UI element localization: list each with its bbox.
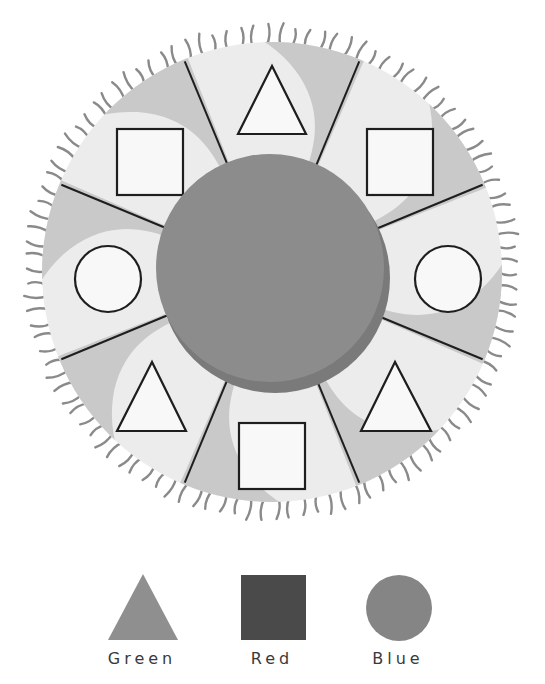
sector-top-left-square-shape[interactable] bbox=[117, 129, 183, 195]
legend-label-red: Red bbox=[212, 649, 332, 668]
triangle-icon bbox=[108, 574, 178, 642]
legend-label-green: Green bbox=[82, 649, 202, 668]
legend-label-blue: Blue bbox=[338, 649, 458, 668]
sector-right-circle-shape[interactable] bbox=[415, 246, 481, 312]
sector-bottom-square-shape[interactable] bbox=[239, 423, 305, 489]
sector-top-right-square-shape[interactable] bbox=[367, 129, 433, 195]
center-disc-face bbox=[156, 154, 384, 382]
circle-icon bbox=[364, 574, 434, 642]
legend: Green Red Blue bbox=[0, 574, 545, 684]
shape-wheel-diagram bbox=[0, 0, 545, 545]
sector-left-circle-shape[interactable] bbox=[75, 246, 141, 312]
square-icon bbox=[238, 574, 308, 642]
